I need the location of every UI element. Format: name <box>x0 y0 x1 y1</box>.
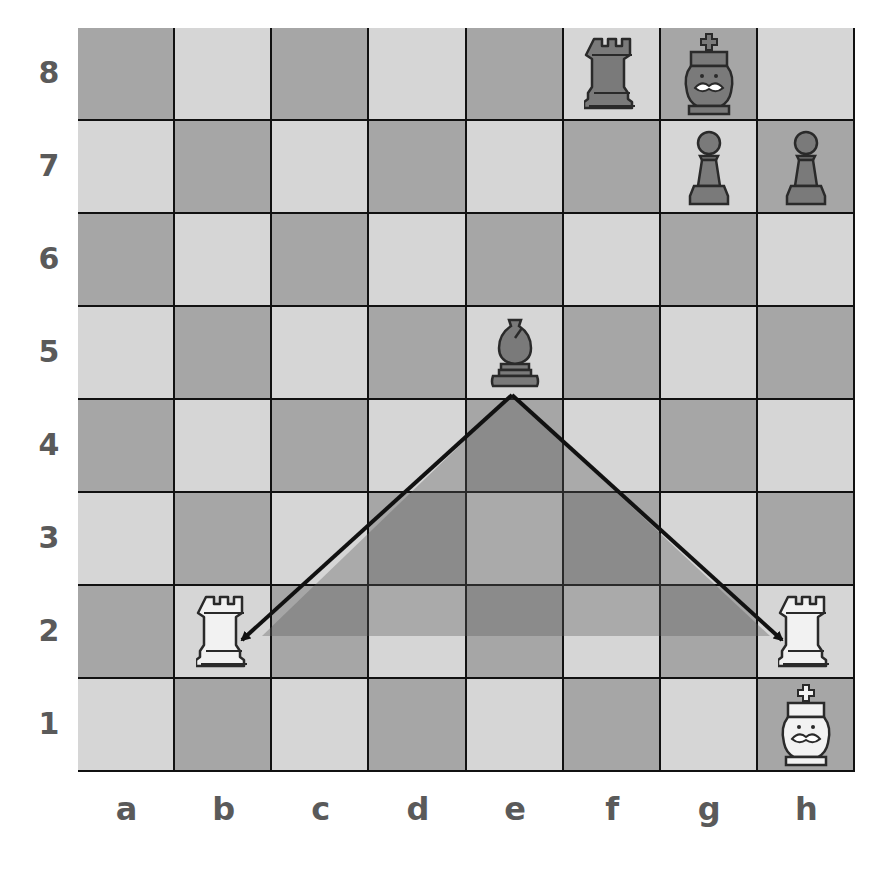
square-g3 <box>661 493 758 586</box>
black-king-g8-icon <box>677 32 741 122</box>
chess-board <box>78 28 855 772</box>
square-e6 <box>467 214 564 307</box>
square-a7 <box>78 121 175 214</box>
square-d6 <box>369 214 466 307</box>
square-c3 <box>272 493 369 586</box>
rank-label-2: 2 <box>34 613 64 648</box>
square-e2 <box>467 586 564 679</box>
square-b3 <box>175 493 272 586</box>
square-c1 <box>272 679 369 772</box>
file-label-h: h <box>786 790 826 828</box>
square-c8 <box>272 28 369 121</box>
square-a4 <box>78 400 175 493</box>
square-b6 <box>175 214 272 307</box>
file-label-e: e <box>495 790 535 828</box>
square-f1 <box>564 679 661 772</box>
square-c5 <box>272 307 369 400</box>
square-a2 <box>78 586 175 679</box>
square-g1 <box>661 679 758 772</box>
square-f5 <box>564 307 661 400</box>
square-d1 <box>369 679 466 772</box>
rank-label-7: 7 <box>34 148 64 183</box>
square-d5 <box>369 307 466 400</box>
square-a3 <box>78 493 175 586</box>
square-d4 <box>369 400 466 493</box>
square-a5 <box>78 307 175 400</box>
square-f2 <box>564 586 661 679</box>
square-f3 <box>564 493 661 586</box>
square-g6 <box>661 214 758 307</box>
white-rook-h2-icon <box>778 593 834 677</box>
square-h4 <box>758 400 855 493</box>
square-e3 <box>467 493 564 586</box>
square-c4 <box>272 400 369 493</box>
square-e7 <box>467 121 564 214</box>
white-rook-b2-icon <box>196 593 252 677</box>
file-label-c: c <box>301 790 341 828</box>
square-b8 <box>175 28 272 121</box>
square-b4 <box>175 400 272 493</box>
rank-label-3: 3 <box>34 520 64 555</box>
square-e1 <box>467 679 564 772</box>
square-g5 <box>661 307 758 400</box>
square-a8 <box>78 28 175 121</box>
square-b7 <box>175 121 272 214</box>
square-a1 <box>78 679 175 772</box>
square-f4 <box>564 400 661 493</box>
file-label-a: a <box>107 790 147 828</box>
square-g2 <box>661 586 758 679</box>
square-h3 <box>758 493 855 586</box>
square-c2 <box>272 586 369 679</box>
square-c6 <box>272 214 369 307</box>
square-h6 <box>758 214 855 307</box>
file-label-g: g <box>689 790 729 828</box>
black-rook-f8-icon <box>584 35 640 119</box>
rank-label-1: 1 <box>34 706 64 741</box>
square-d3 <box>369 493 466 586</box>
file-label-f: f <box>592 790 632 828</box>
file-label-b: b <box>204 790 244 828</box>
square-e8 <box>467 28 564 121</box>
square-h8 <box>758 28 855 121</box>
white-king-h1-icon <box>774 683 838 773</box>
square-e4 <box>467 400 564 493</box>
square-f6 <box>564 214 661 307</box>
square-b5 <box>175 307 272 400</box>
black-pawn-h7-icon <box>781 128 831 212</box>
black-pawn-g7-icon <box>684 128 734 212</box>
square-g4 <box>661 400 758 493</box>
square-c7 <box>272 121 369 214</box>
rank-label-5: 5 <box>34 334 64 369</box>
rank-label-8: 8 <box>34 55 64 90</box>
file-label-d: d <box>398 790 438 828</box>
rank-label-4: 4 <box>34 427 64 462</box>
square-h5 <box>758 307 855 400</box>
square-d7 <box>369 121 466 214</box>
rank-label-6: 6 <box>34 241 64 276</box>
square-d2 <box>369 586 466 679</box>
black-bishop-e5-icon <box>489 314 541 398</box>
square-a6 <box>78 214 175 307</box>
square-f7 <box>564 121 661 214</box>
square-d8 <box>369 28 466 121</box>
square-b1 <box>175 679 272 772</box>
